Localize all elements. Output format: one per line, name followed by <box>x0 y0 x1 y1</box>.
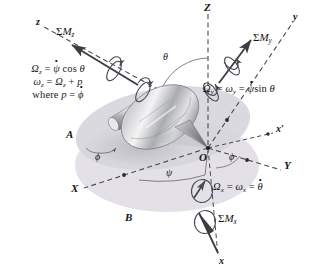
plane-label-a: A <box>66 129 73 140</box>
eq-z-l2-rhs-sub: z <box>63 81 66 88</box>
axis-label-z-body: z <box>36 17 40 27</box>
eq-x-lhs-sub: x <box>221 186 224 193</box>
eq-z-l2-lhs: ω <box>33 76 41 87</box>
axis-label-Z: Z <box>204 2 211 13</box>
eq-y-eq1: = <box>217 83 223 94</box>
moment-label-Mz: ΣMz <box>56 26 74 39</box>
plane-label-b: B <box>125 212 132 223</box>
angle-label-phi-mid: ϕ <box>229 152 234 162</box>
eq-z-l1-lhs-sub: z <box>39 68 42 75</box>
axis-label-y-body: y <box>293 12 297 22</box>
origin-label: O <box>199 152 207 163</box>
diagram-graphics <box>0 0 322 277</box>
eq-z-l2-eq: = <box>46 76 52 87</box>
eq-x-eq1: = <box>227 181 233 192</box>
eq-z-l1-psidot: ψ <box>53 63 60 74</box>
moment-label-My: ΣMy <box>253 32 272 45</box>
eq-z-l1-cos: cos <box>63 63 77 74</box>
eq-x-mid: ω <box>235 181 243 192</box>
eq-y-lhs-sub: y <box>211 88 214 95</box>
eq-z-l3-eq: = <box>69 89 75 100</box>
eq-z-l1-lhs: Ω <box>31 63 39 74</box>
eq-y-eq2: = <box>239 83 245 94</box>
equation-omega-y-line: Ωy = ωy = ψsin θ <box>203 84 275 95</box>
origin-point <box>206 146 210 150</box>
eq-z-l2-rhs: Ω <box>55 76 63 87</box>
eq-z-l3-p: p <box>61 89 66 100</box>
axis-label-Y: Y <box>284 160 291 171</box>
equation-where-p-line: where p = ϕ <box>6 89 110 100</box>
eq-y-mid-sub: y <box>233 88 236 95</box>
eq-x-lhs: Ω <box>213 181 221 192</box>
axis-label-X: X <box>71 183 78 194</box>
eq-x-eq2: = <box>249 181 255 192</box>
eq-z-l2-plus: + <box>68 76 74 87</box>
eq-z-l3-phidot: ϕ <box>78 89 84 100</box>
m-glyph-x: M <box>224 212 233 224</box>
equation-block-z: Ωz = ψ cos θ ωz = Ωz + p where p = ϕ <box>6 63 110 102</box>
axis-label-x-prime: x′ <box>276 124 284 134</box>
m-sub-z: z <box>72 31 75 39</box>
axis-label-x-body: x <box>219 256 224 266</box>
eq-x-mid-sub: x <box>243 186 246 193</box>
eq-y-theta: θ <box>270 83 275 94</box>
gyroscope-diagram: Z Y X x′ y z x A B O θ ϕ ϕ ψ ΣMz ΣMy ΣMx… <box>0 0 322 277</box>
equation-omega-z-sum-line: ωz = Ωz + p <box>6 76 110 88</box>
eq-z-l1-eq: = <box>44 63 50 74</box>
eq-z-l2-lhs-sub: z <box>41 81 44 88</box>
eq-x-thetadot: θ <box>258 182 263 193</box>
eq-z-l3-where: where <box>32 89 58 100</box>
eq-y-lhs: Ω <box>203 83 211 94</box>
angle-theta-arc <box>163 58 208 86</box>
angle-label-phi-left: ϕ <box>95 152 100 162</box>
moment-label-Mx: ΣMx <box>218 213 237 226</box>
angle-label-psi: ψ <box>166 168 172 178</box>
eq-y-psidot: ψ <box>248 84 255 95</box>
equation-omega-z-line: Ωz = ψ cos θ <box>6 63 110 75</box>
m-glyph-y: M <box>259 31 268 43</box>
equation-omega-x-line: Ωx = ωx = θ <box>213 182 263 193</box>
eq-z-l1-theta: θ <box>80 63 85 74</box>
angle-label-theta: θ <box>163 52 168 62</box>
eq-y-sin: sin <box>254 83 267 94</box>
m-sub-y: y <box>269 37 272 45</box>
m-sub-x: x <box>234 218 237 226</box>
m-glyph-z: M <box>62 25 71 37</box>
eq-y-mid: ω <box>225 83 233 94</box>
